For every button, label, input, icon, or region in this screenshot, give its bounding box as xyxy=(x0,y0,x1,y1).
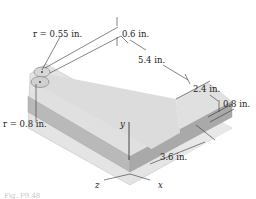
label-r-bottom: r = 0.8 in. xyxy=(3,119,47,129)
label-x-axis: x xyxy=(158,180,163,190)
diagram-canvas: r = 0.55 in. 0.6 in. 5.4 in. 2.4 in. 0.8… xyxy=(0,0,256,199)
label-dim-2-4: 2.4 in. xyxy=(193,84,220,94)
label-z-axis: z xyxy=(94,180,100,190)
label-dim-0-8: 0.8 in. xyxy=(223,99,250,109)
label-dim-3-6: 3.6 in. xyxy=(160,152,187,162)
label-y-axis: y xyxy=(119,119,125,129)
caption: Fig. P9.48 xyxy=(4,192,40,199)
label-dim-5-4: 5.4 in. xyxy=(138,55,165,65)
label-r-top: r = 0.55 in. xyxy=(33,29,82,39)
label-dim-0-6: 0.6 in. xyxy=(122,29,149,39)
